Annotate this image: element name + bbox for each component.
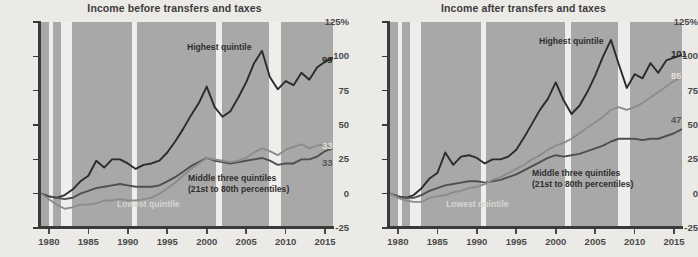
highest-quintile-label: Highest quintile: [539, 36, 603, 47]
y-axis-tick-label: 100: [315, 50, 349, 61]
highest-quintile-label: Highest quintile: [187, 42, 251, 53]
x-axis-tick-label: 2005: [236, 236, 257, 247]
y-axis-tick: [33, 227, 39, 229]
series-line: [41, 144, 333, 209]
x-axis-tick: [48, 229, 50, 234]
x-axis-tick-label: 2015: [664, 236, 685, 247]
x-axis-tick-label: 2010: [275, 236, 296, 247]
lowest-quintile-label: Lowest quintile: [117, 199, 180, 210]
panel-income-after-transfers-and-taxes: Income after transfers and taxes 1980198…: [349, 0, 698, 257]
lowest-quintile-label: Lowest quintile: [446, 199, 509, 210]
y-axis-tick-label: 50: [664, 119, 698, 130]
x-axis-tick: [206, 229, 208, 234]
end-label-lowest: 85: [671, 70, 682, 81]
panel-title: Income before transfers and taxes: [0, 2, 349, 14]
y-axis-tick: [33, 90, 39, 92]
y-axis-tick: [33, 21, 39, 23]
series-line: [41, 51, 333, 198]
x-axis-tick-label: 2005: [585, 236, 606, 247]
x-axis-tick: [397, 229, 399, 234]
plot-area: [390, 22, 682, 228]
y-axis-tick-label: 25: [315, 153, 349, 164]
y-axis-tick: [33, 193, 39, 195]
x-axis-tick: [476, 229, 478, 234]
x-axis-tick: [515, 229, 517, 234]
y-axis-tick: [33, 124, 39, 126]
chart-figure: Income before transfers and taxes 198019…: [0, 0, 698, 257]
x-axis-tick-label: 1985: [427, 236, 448, 247]
y-axis-tick-label: 25: [664, 153, 698, 164]
x-axis-tick-label: 2015: [315, 236, 336, 247]
x-axis-tick: [437, 229, 439, 234]
y-axis-tick: [382, 124, 388, 126]
y-axis-tick: [382, 56, 388, 58]
x-axis-tick-label: 1990: [466, 236, 487, 247]
x-axis-tick-label: 1995: [157, 236, 178, 247]
y-axis-tick-label: -25: [315, 222, 349, 233]
y-axis-tick: [382, 227, 388, 229]
y-axis-tick-label: -25: [664, 222, 698, 233]
y-axis-tick-label: 0: [315, 188, 349, 199]
x-axis-line: [38, 226, 334, 229]
y-axis-tick-label: 75: [315, 85, 349, 96]
x-axis-tick-label: 1980: [38, 236, 59, 247]
y-axis-tick-label: 0: [664, 188, 698, 199]
y-axis-tick: [382, 193, 388, 195]
y-axis-tick: [382, 90, 388, 92]
x-axis-tick: [285, 229, 287, 234]
middle-three-quintiles-sublabel: (21st to 80th percentiles): [532, 179, 633, 190]
y-axis-tick: [382, 159, 388, 161]
series-lines: [390, 22, 682, 228]
y-axis-tick-label: 50: [315, 119, 349, 130]
x-axis-tick-label: 2010: [624, 236, 645, 247]
x-axis-tick-label: 1985: [78, 236, 99, 247]
x-axis-tick: [88, 229, 90, 234]
x-axis-tick-label: 1990: [117, 236, 138, 247]
x-axis-tick: [127, 229, 129, 234]
panel-income-before-transfers-and-taxes: Income before transfers and taxes 198019…: [0, 0, 349, 257]
x-axis-line: [387, 226, 683, 229]
x-axis-tick: [555, 229, 557, 234]
panel-title: Income after transfers and taxes: [349, 2, 698, 14]
y-axis-tick-label: 125%: [664, 16, 698, 27]
middle-three-quintiles-label: Middle three quintiles: [188, 173, 276, 184]
middle-three-quintiles-label: Middle three quintiles: [532, 168, 620, 179]
y-axis-tick: [33, 159, 39, 161]
x-axis-tick: [166, 229, 168, 234]
y-axis-tick: [33, 56, 39, 58]
y-axis-tick: [382, 21, 388, 23]
y-axis-tick-label: 75: [664, 85, 698, 96]
x-axis-tick-label: 2000: [196, 236, 217, 247]
end-label-lowest: 33: [322, 140, 333, 151]
x-axis-tick: [634, 229, 636, 234]
x-axis-tick-label: 1995: [506, 236, 527, 247]
x-axis-tick-label: 1980: [387, 236, 408, 247]
y-axis-tick-label: 100: [664, 50, 698, 61]
middle-three-quintiles-sublabel: (21st to 80th percentiles): [188, 184, 289, 195]
y-axis-tick-label: 125%: [315, 16, 349, 27]
x-axis-tick: [245, 229, 247, 234]
x-axis-tick: [594, 229, 596, 234]
x-axis-tick-label: 2000: [545, 236, 566, 247]
